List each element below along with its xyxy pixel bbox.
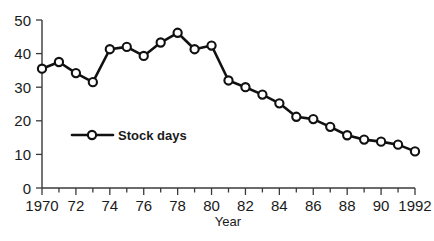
data-point-marker bbox=[190, 45, 198, 53]
data-point-marker bbox=[72, 69, 80, 77]
data-point-marker bbox=[174, 29, 182, 37]
x-axis: 1970727476788082848688901992 Year bbox=[25, 188, 431, 229]
x-tick-label: 90 bbox=[373, 197, 390, 214]
x-tick-label: 74 bbox=[101, 197, 118, 214]
y-tick-label: 10 bbox=[14, 146, 31, 163]
x-tick-label: 88 bbox=[339, 197, 356, 214]
x-tick-label: 78 bbox=[169, 197, 186, 214]
line-chart-canvas: 01020304050 1970727476788082848688901992… bbox=[0, 0, 434, 241]
x-tick-label: 80 bbox=[203, 197, 220, 214]
chart-legend: Stock days bbox=[72, 128, 187, 143]
x-tick-label: 86 bbox=[305, 197, 322, 214]
data-point-marker bbox=[89, 78, 97, 86]
data-point-marker bbox=[360, 136, 368, 144]
chart-figure: 01020304050 1970727476788082848688901992… bbox=[0, 0, 434, 241]
y-tick-label: 20 bbox=[14, 112, 31, 129]
data-point-marker bbox=[377, 138, 385, 146]
x-tick-label: 72 bbox=[68, 197, 85, 214]
data-point-marker bbox=[258, 90, 266, 98]
x-axis-title: Year bbox=[215, 214, 242, 229]
data-point-marker bbox=[106, 45, 114, 53]
data-point-marker bbox=[157, 38, 165, 46]
data-point-marker bbox=[38, 65, 46, 73]
data-point-marker bbox=[411, 147, 419, 155]
x-tick-label: 82 bbox=[237, 197, 254, 214]
data-point-marker bbox=[140, 52, 148, 60]
series-line-stock-days bbox=[42, 33, 415, 152]
data-point-marker bbox=[394, 141, 402, 149]
x-tick-label: 1992 bbox=[398, 197, 431, 214]
y-tick-label: 0 bbox=[23, 180, 31, 197]
data-point-marker bbox=[275, 99, 283, 107]
data-point-marker bbox=[326, 123, 334, 131]
y-tick-label-group: 01020304050 bbox=[14, 12, 31, 197]
y-axis: 01020304050 bbox=[14, 12, 42, 197]
y-tick-label: 40 bbox=[14, 45, 31, 62]
data-point-marker bbox=[123, 43, 131, 51]
data-point-marker bbox=[55, 58, 63, 66]
x-tick-group bbox=[42, 188, 415, 195]
data-point-marker bbox=[309, 115, 317, 123]
legend-label-stock-days: Stock days bbox=[118, 128, 187, 143]
data-point-marker bbox=[224, 76, 232, 84]
data-point-marker bbox=[241, 83, 249, 91]
x-tick-label: 76 bbox=[135, 197, 152, 214]
y-tick-label: 30 bbox=[14, 79, 31, 96]
data-point-marker bbox=[343, 131, 351, 139]
data-point-marker bbox=[292, 113, 300, 121]
y-tick-group bbox=[36, 20, 42, 188]
legend-marker-icon bbox=[88, 131, 96, 139]
y-tick-label: 50 bbox=[14, 12, 31, 29]
data-point-marker bbox=[207, 41, 215, 49]
x-tick-label: 1970 bbox=[25, 197, 58, 214]
x-tick-label: 84 bbox=[271, 197, 288, 214]
x-tick-label-group: 1970727476788082848688901992 bbox=[25, 197, 431, 214]
